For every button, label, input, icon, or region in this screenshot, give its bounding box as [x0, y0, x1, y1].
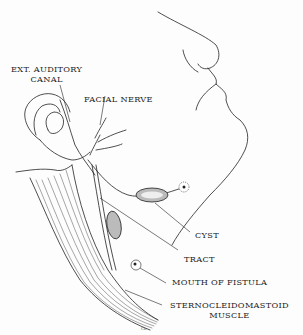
sternocleidomastoid-muscle: [16, 165, 72, 172]
diagram-canvas: EXT. AUDITORY CANAL FACIAL NERVE CYST TR…: [0, 0, 303, 335]
label-line: EXT. AUDITORY: [11, 64, 82, 74]
face-profile: [158, 12, 248, 245]
fistula-tract: [88, 160, 182, 196]
leader-cyst: [155, 203, 190, 232]
label-tract: TRACT: [184, 254, 215, 264]
label-cyst: CYST: [195, 230, 219, 240]
label-line: MUSCLE: [170, 310, 289, 320]
label-sternocleidomastoid-muscle: STERNOCLEIDOMASTOID MUSCLE: [170, 300, 289, 320]
label-line: STERNOCLEIDOMASTOID: [170, 300, 289, 310]
label-ext-auditory-canal: EXT. AUDITORY CANAL: [11, 64, 82, 84]
artist-signature: Co.: [141, 326, 147, 331]
label-mouth-of-fistula: MOUTH OF FISTULA: [172, 277, 267, 287]
leader-sternocleidomastoid: [125, 290, 162, 305]
leader-mouth: [140, 268, 166, 283]
label-facial-nerve: FACIAL NERVE: [84, 94, 153, 104]
label-line: CANAL: [11, 74, 82, 84]
cyst-lower: [105, 210, 124, 240]
